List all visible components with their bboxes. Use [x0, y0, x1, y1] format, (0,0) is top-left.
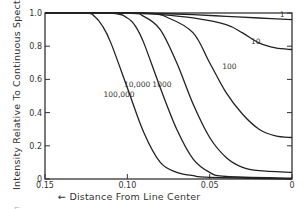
y-tick-label: 1.0 [29, 9, 42, 18]
curve-label-1: 1 [280, 10, 285, 19]
curve-labels: 110100100010,000100,000 [104, 10, 285, 99]
y-tick-label: 0.8 [29, 42, 42, 51]
curve-100 [45, 13, 292, 138]
curve-label-100: 100 [222, 62, 237, 71]
x-tick-label: 0.10 [118, 181, 136, 190]
curve-label-10000: 10,000 [124, 80, 150, 89]
y-tick-label: 0.2 [29, 142, 42, 151]
y-tick-label: 0.6 [29, 75, 42, 84]
y-tick-label: 0.4 [29, 109, 42, 118]
curve-label-1000: 1000 [152, 80, 171, 89]
curve-label-10: 10 [251, 37, 261, 46]
curve-label-100000: 100,000 [104, 90, 135, 99]
figure-caption: Fig. [14, 207, 28, 209]
x-tick-label: 0.05 [201, 181, 219, 190]
x-tick-label: 0 [289, 181, 294, 190]
line-chart: 00.20.40.60.81.00.150.100.050 1101001000… [0, 0, 306, 209]
y-axis-title: Intensity Relative To Continuous Spectru… [11, 0, 22, 190]
x-axis-title: ← Distance From Line Center [58, 191, 200, 202]
x-tick-label: 0.15 [36, 181, 54, 190]
